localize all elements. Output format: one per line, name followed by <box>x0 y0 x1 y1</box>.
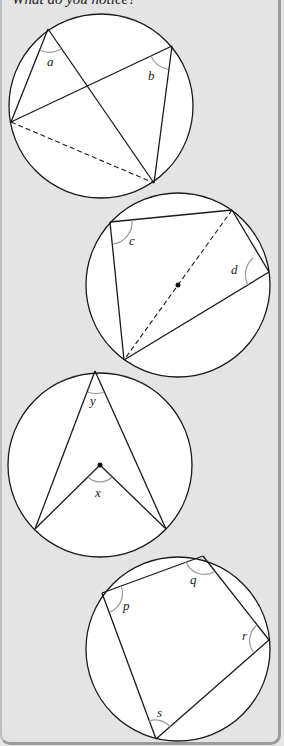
centre-point <box>98 463 103 468</box>
angle-label-d: d <box>231 262 238 277</box>
angle-label-c: c <box>129 233 135 248</box>
angle-label-s: s <box>157 705 162 720</box>
angle-label-a: a <box>47 54 54 69</box>
circle-4-figure: p q r s <box>86 556 270 741</box>
angle-label-p: p <box>122 598 130 613</box>
angle-label-x: x <box>94 485 101 500</box>
circle-1-figure: a b <box>9 14 193 198</box>
angle-label-y: y <box>88 393 96 408</box>
circle-4 <box>86 557 270 741</box>
centre-point <box>176 283 181 288</box>
circle-2-figure: c d <box>86 193 270 377</box>
circle-3-figure: y x <box>8 371 192 557</box>
circle-theorems-diagram: a b c d y x p <box>0 0 284 746</box>
angle-label-b: b <box>148 68 155 83</box>
angle-label-q: q <box>190 572 197 587</box>
